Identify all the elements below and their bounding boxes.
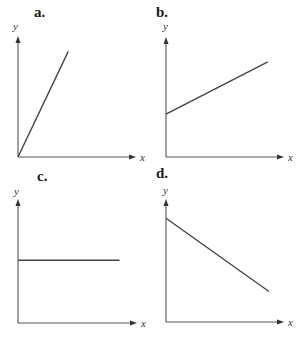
x-axis-label-a: x bbox=[139, 151, 145, 163]
y-axis-arrow-c bbox=[16, 199, 21, 206]
y-axis-label-d: y bbox=[162, 184, 168, 196]
panel-label-c: c. bbox=[37, 168, 48, 184]
series-line-b bbox=[166, 62, 268, 114]
y-axis-arrow-b bbox=[164, 37, 169, 44]
x-axis-arrow-c bbox=[130, 321, 137, 326]
series-line-a bbox=[18, 51, 68, 157]
y-axis-arrow-a bbox=[16, 36, 21, 43]
x-axis-arrow-d bbox=[277, 320, 284, 325]
y-axis-label-a: y bbox=[12, 20, 18, 32]
panel-d: d. y x bbox=[156, 165, 293, 328]
y-axis-label-b: y bbox=[162, 20, 168, 32]
panel-b: b. y x bbox=[156, 4, 293, 163]
figure-four-line-graphs: a. y x b. y x c. y x d. y x bbox=[0, 0, 306, 340]
series-layer-a bbox=[18, 51, 68, 157]
y-axis-arrow-d bbox=[164, 199, 169, 206]
x-axis-label-d: x bbox=[287, 316, 293, 328]
series-layer-d bbox=[166, 218, 269, 291]
x-axis-label-b: x bbox=[287, 151, 293, 163]
panel-c: c. y x bbox=[13, 168, 146, 329]
panel-label-a: a. bbox=[34, 4, 46, 20]
panel-label-b: b. bbox=[156, 4, 168, 20]
panel-label-d: d. bbox=[156, 165, 168, 181]
x-axis-label-c: x bbox=[140, 317, 146, 329]
x-axis-arrow-a bbox=[129, 155, 136, 160]
series-layer-b bbox=[166, 62, 268, 114]
panel-a: a. y x bbox=[12, 4, 145, 163]
y-axis-label-c: y bbox=[13, 185, 19, 197]
series-line-d bbox=[166, 218, 269, 291]
x-axis-arrow-b bbox=[277, 155, 284, 160]
